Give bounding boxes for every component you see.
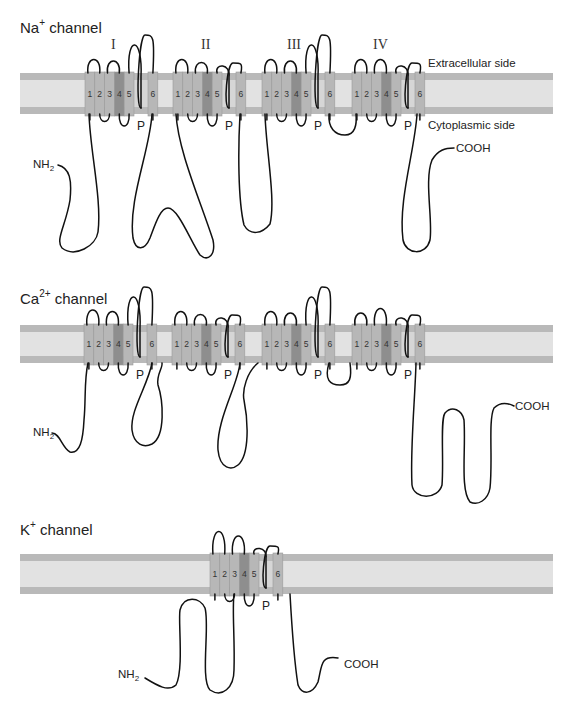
segment-number: 2 — [274, 89, 279, 99]
segment-number: 2 — [364, 89, 369, 99]
segment-number: 2 — [274, 339, 279, 349]
segment-number: 5 — [214, 339, 219, 349]
segment-number: 3 — [107, 89, 112, 99]
loop-chain — [176, 60, 188, 74]
ca-cooh-label: COOH — [515, 400, 550, 412]
loop-chain — [355, 313, 367, 325]
segment-number: 1 — [175, 339, 180, 349]
segment-number: 3 — [374, 89, 379, 99]
segment-number: 2 — [184, 339, 189, 349]
ca-c-terminus-chain — [412, 363, 514, 503]
segment-number: 6 — [328, 89, 333, 99]
k-channel-panel: K+ channel 123456P NH2 COOH — [20, 519, 553, 693]
k-c-terminus-chain — [290, 594, 338, 692]
segment-number: 1 — [265, 89, 270, 99]
loop-chain — [284, 61, 296, 73]
ca-channel-panel: Ca2+ channel 123456P123456P123456P123456… — [20, 287, 553, 503]
pore-label: P — [224, 368, 232, 382]
channel-domain: 123456P — [352, 309, 425, 383]
k-nh2-label: NH2 — [118, 668, 140, 683]
segment-number: 5 — [394, 89, 399, 99]
segment-number: 1 — [355, 339, 360, 349]
segment-number: 3 — [194, 339, 199, 349]
segment-number: 4 — [294, 339, 299, 349]
channel-domain: 123456P — [172, 312, 245, 383]
loop-chain — [232, 536, 244, 554]
segment-number: 1 — [355, 89, 360, 99]
segment-number: 4 — [117, 89, 122, 99]
loop-chain — [374, 309, 386, 326]
pore-label: P — [137, 119, 145, 133]
segment-number: 3 — [374, 339, 379, 349]
channel-domain: 123456P — [85, 35, 158, 133]
k-cooh-label: COOH — [344, 658, 379, 670]
loop-chain — [355, 60, 367, 74]
loop-chain — [265, 60, 277, 74]
segment-number: 6 — [418, 339, 423, 349]
segment-number: 2 — [364, 339, 369, 349]
channel-domain: 123456P — [173, 60, 246, 134]
na-channel-panel: Na+ channel I II III IV Extracellular si… — [20, 17, 553, 258]
na-nh2-label: NH2 — [33, 158, 55, 173]
pore-label: P — [314, 368, 322, 382]
pore-label: P — [225, 119, 233, 133]
segment-number: 4 — [294, 89, 299, 99]
channel-domain: 123456P — [262, 287, 335, 382]
segment-number: 1 — [87, 339, 92, 349]
segment-number: 5 — [252, 569, 257, 579]
na-c-terminus-chain — [402, 114, 454, 252]
segment-number: 5 — [127, 89, 132, 99]
segment-number: 1 — [176, 89, 181, 99]
segment-number: 4 — [204, 339, 209, 349]
loop-chain — [107, 61, 119, 73]
segment-number: 3 — [284, 339, 289, 349]
segment-number: 6 — [418, 89, 423, 99]
k-channel-title: K+ channel — [20, 519, 93, 538]
segment-number: 6 — [150, 339, 155, 349]
segment-number: 6 — [238, 339, 243, 349]
loop-chain — [284, 313, 296, 325]
segment-number: 5 — [126, 339, 131, 349]
na-cooh-label: COOH — [456, 142, 491, 154]
channel-domain: 123456P — [210, 532, 283, 614]
pore-label: P — [404, 368, 412, 382]
segment-number: 2 — [96, 339, 101, 349]
pore-label: P — [262, 599, 270, 613]
segment-number: 5 — [215, 89, 220, 99]
segment-number: 2 — [185, 89, 190, 99]
segment-number: 5 — [304, 89, 309, 99]
loop-chain — [265, 312, 277, 326]
segment-number: 3 — [284, 89, 289, 99]
segment-number: 4 — [116, 339, 121, 349]
segment-number: 4 — [242, 569, 247, 579]
segment-number: 3 — [232, 569, 237, 579]
domain-label-iii: III — [287, 37, 301, 52]
ca-linker-iii-iv — [327, 363, 350, 385]
domain-label-i: I — [111, 37, 116, 52]
domain-label-ii: II — [201, 37, 211, 52]
ca-nh2-label: NH2 — [33, 426, 55, 441]
segment-number: 1 — [88, 89, 93, 99]
segment-number: 5 — [304, 339, 309, 349]
loop-chain — [175, 312, 187, 326]
segment-number: 3 — [195, 89, 200, 99]
loop-chain — [374, 60, 386, 74]
na-n-terminus-chain — [58, 114, 99, 252]
segment-number: 6 — [276, 569, 281, 579]
segment-number: 5 — [394, 339, 399, 349]
loop-chain — [87, 310, 99, 325]
ca-channel-title: Ca2+ channel — [20, 288, 107, 307]
k-membrane — [20, 554, 553, 594]
na-linker-ii-iii — [239, 114, 272, 232]
pore-label: P — [136, 368, 144, 382]
segment-number: 4 — [205, 89, 210, 99]
loop-chain — [195, 63, 207, 74]
segment-number: 6 — [239, 89, 244, 99]
na-channel-title: Na+ channel — [20, 17, 102, 36]
na-linker-i-ii — [132, 114, 213, 258]
segment-number: 1 — [265, 339, 270, 349]
extracellular-side-label: Extracellular side — [428, 57, 516, 69]
segment-number: 4 — [384, 339, 389, 349]
domain-label-iv: IV — [373, 37, 388, 52]
segment-number: 6 — [328, 339, 333, 349]
